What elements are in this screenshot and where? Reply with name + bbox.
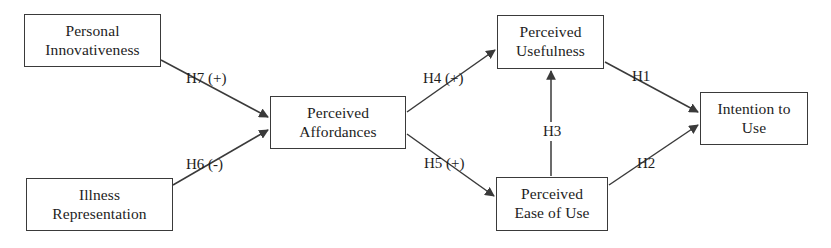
node-personal-innovativeness[interactable]: Personal Innovativeness xyxy=(24,14,161,67)
path-label-h3: H3 xyxy=(539,122,565,141)
node-intention-to-use[interactable]: Intention to Use xyxy=(700,92,808,145)
node-label-line: Intention to xyxy=(717,100,790,119)
node-label-line: Perceived xyxy=(307,104,369,123)
node-label-line: Perceived xyxy=(519,23,581,42)
node-perceived-usefulness[interactable]: Perceived Usefulness xyxy=(497,15,604,69)
node-label-line: Affordances xyxy=(299,123,376,142)
path-label-h4: H4 (+) xyxy=(423,71,464,86)
path-label-h5: H5 (+) xyxy=(424,156,465,171)
edge-h1 xyxy=(605,62,698,112)
node-perceived-affordances[interactable]: Perceived Affordances xyxy=(270,96,406,149)
node-label-line: Innovativeness xyxy=(45,41,139,60)
path-label-h7: H7 (+) xyxy=(186,71,227,86)
path-label-h1: H1 xyxy=(632,69,650,84)
node-label-line: Usefulness xyxy=(516,42,585,61)
node-label-line: Perceived xyxy=(521,185,583,204)
path-label-h6: H6 (-) xyxy=(186,157,223,172)
path-label-h2: H2 xyxy=(637,156,655,171)
edge-h7 xyxy=(161,60,268,117)
node-label-line: Ease of Use xyxy=(514,204,589,223)
node-label-line: Representation xyxy=(52,205,146,224)
node-perceived-ease-of-use[interactable]: Perceived Ease of Use xyxy=(496,177,608,231)
research-model-diagram: Personal Innovativeness Illness Represen… xyxy=(0,0,831,248)
node-label-line: Use xyxy=(742,119,766,138)
node-label-line: Illness xyxy=(79,186,120,205)
node-label-line: Personal xyxy=(65,22,119,41)
node-illness-representation[interactable]: Illness Representation xyxy=(26,178,173,231)
